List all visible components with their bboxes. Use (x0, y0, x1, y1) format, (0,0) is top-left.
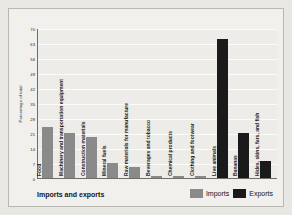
bar-imports (86, 137, 97, 178)
category-label: Clothing and footwear (189, 123, 195, 176)
category-label: Beverages and tobacco (145, 120, 151, 176)
y-tick-49: 49 (21, 72, 35, 77)
bar-imports (107, 163, 118, 178)
bar-exports (217, 39, 228, 178)
category-label: Food (36, 164, 42, 176)
bar-exports (238, 133, 249, 178)
y-tick-21: 21 (21, 132, 35, 137)
bar-imports (42, 127, 53, 178)
y-tick-28: 28 (21, 117, 35, 122)
category-label: Mineral fuels (101, 145, 107, 176)
y-tick-70: 70 (21, 27, 35, 32)
chart-caption: Imports and exports (37, 191, 104, 198)
y-tick-56: 56 (21, 57, 35, 62)
bar-imports (173, 176, 184, 178)
legend-swatch-exports (233, 189, 246, 198)
category-label: Live animals (211, 146, 217, 176)
y-tick-42: 42 (21, 87, 35, 92)
legend-item-imports: Imports (190, 189, 229, 198)
category-label: Construction materials (80, 122, 86, 176)
category-label: Chemical products (167, 131, 173, 176)
y-tick-7: 7 (21, 162, 35, 167)
y-axis-tick-labels: 70635649423528211470 (21, 29, 35, 179)
y-tick-0: 0 (21, 177, 35, 182)
legend-item-exports: Exports (233, 189, 273, 198)
bar-imports (151, 176, 162, 178)
y-tick-14: 14 (21, 147, 35, 152)
bar-imports (64, 133, 75, 178)
category-label: Raw materials for manufacture (123, 103, 129, 176)
chart-legend: Imports Exports (190, 189, 273, 198)
bar-group: FoodMachinery and transportation equipme… (38, 29, 277, 178)
plot-area: FoodMachinery and transportation equipme… (37, 29, 277, 179)
y-tick-35: 35 (21, 102, 35, 107)
chart-figure: Percentage of total 70635649423528211470… (8, 8, 284, 207)
bar-imports (195, 176, 206, 178)
legend-swatch-imports (190, 189, 203, 198)
bar-exports (260, 161, 271, 178)
bar-slot: Hides, skins, furs, and fish (258, 29, 280, 178)
category-label: Machinery and transportation equipment (58, 79, 64, 176)
legend-label-imports: Imports (206, 190, 229, 197)
y-tick-63: 63 (21, 42, 35, 47)
legend-label-exports: Exports (249, 190, 273, 197)
category-label: Hides, skins, furs, and fish (254, 113, 260, 176)
category-label: Bananas (232, 155, 238, 176)
bar-imports (129, 167, 140, 178)
